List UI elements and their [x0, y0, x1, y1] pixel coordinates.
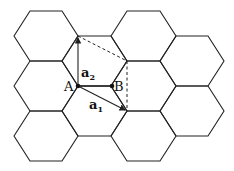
hexagon — [160, 86, 224, 136]
hexagon — [14, 111, 78, 161]
hexagon — [111, 111, 176, 161]
hexagon — [160, 36, 224, 86]
site-a-label: A — [64, 80, 73, 93]
honeycomb-lattice-diagram: A B a2 a1 — [0, 0, 234, 171]
vector-a1-label: a1 — [89, 98, 103, 113]
site-a-dot — [76, 84, 81, 89]
hexagon — [14, 11, 78, 61]
site-b-label: B — [114, 80, 124, 93]
hexagon — [111, 11, 176, 61]
vector-a2-label: a2 — [81, 66, 95, 81]
